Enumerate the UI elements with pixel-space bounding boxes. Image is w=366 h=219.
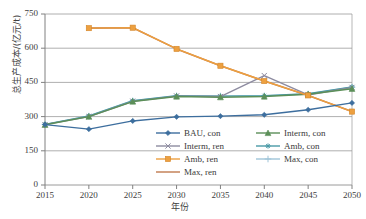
legend-label: Max, ren — [184, 167, 217, 177]
data-point-marker — [306, 93, 311, 98]
series-interm-con — [42, 86, 355, 128]
legend-row: Max, ren — [155, 165, 355, 178]
data-point-marker — [174, 46, 179, 51]
y-tick-label: 150 — [8, 145, 38, 155]
legend-marker-line-icon — [155, 166, 181, 178]
legend-marker-diamond-icon — [155, 127, 181, 139]
data-point-marker — [174, 114, 179, 119]
y-tick-label: 750 — [8, 8, 38, 18]
x-tick-label: 2020 — [69, 190, 109, 200]
legend-item[interactable]: BAU, con — [155, 127, 255, 139]
legend-label: Amb, con — [284, 141, 320, 151]
legend-label: Interm, ren — [184, 141, 224, 151]
legend-marker-triangle-icon — [255, 127, 281, 139]
data-point-marker — [262, 78, 267, 83]
data-point-marker — [306, 107, 311, 112]
x-tick-label: 2045 — [288, 190, 328, 200]
y-tick-label: 300 — [8, 111, 38, 121]
y-tick-label: 600 — [8, 42, 38, 52]
data-point-marker — [86, 127, 91, 132]
x-tick-label: 2030 — [157, 190, 197, 200]
x-tick-label: 2040 — [244, 190, 284, 200]
legend-item[interactable]: Max, con — [255, 153, 355, 165]
data-point-marker — [349, 109, 354, 114]
data-point-marker — [165, 130, 170, 135]
legend-marker-x-icon — [155, 140, 181, 152]
x-axis-title: 年份 — [0, 200, 360, 213]
legend-item[interactable]: Amb, con — [255, 140, 355, 152]
data-point-marker — [218, 63, 223, 68]
data-point-marker — [262, 73, 267, 78]
legend-item[interactable]: Max, ren — [155, 166, 255, 178]
legend-marker-asterisk-icon — [255, 140, 281, 152]
data-point-marker — [265, 155, 272, 162]
legend-label: BAU, con — [184, 128, 221, 138]
series-max-con — [42, 84, 356, 128]
y-tick-label: 0 — [8, 179, 38, 189]
data-point-marker — [265, 143, 270, 148]
series-amb-ren — [86, 25, 354, 114]
x-tick-label: 2035 — [200, 190, 240, 200]
chart-legend: BAU, conInterm, conInterm, renAmb, conAm… — [155, 126, 355, 178]
x-tick-label: 2015 — [25, 190, 65, 200]
legend-item[interactable]: Amb, ren — [155, 153, 255, 165]
data-point-marker — [218, 114, 223, 119]
legend-label: Interm, con — [284, 128, 325, 138]
x-tick-label: 2025 — [113, 190, 153, 200]
data-point-marker — [130, 25, 135, 30]
legend-marker-square-icon — [155, 153, 181, 165]
data-point-marker — [349, 100, 354, 105]
legend-row: Interm, renAmb, con — [155, 139, 355, 152]
legend-item[interactable]: Interm, con — [255, 127, 355, 139]
legend-marker-plus-icon — [255, 153, 281, 165]
data-point-marker — [130, 118, 135, 123]
data-point-marker — [86, 26, 91, 31]
y-tick-label: 450 — [8, 76, 38, 86]
x-tick-label: 2050 — [332, 190, 366, 200]
legend-label: Amb, ren — [184, 154, 218, 164]
legend-item[interactable]: Interm, ren — [155, 140, 255, 152]
legend-row: Amb, renMax, con — [155, 152, 355, 165]
data-point-marker — [165, 156, 170, 161]
legend-row: BAU, conInterm, con — [155, 126, 355, 139]
legend-label: Max, con — [284, 154, 318, 164]
